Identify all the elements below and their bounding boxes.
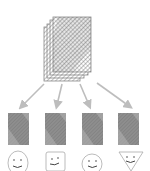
faces-row [8, 151, 143, 171]
fan-out-arrows [22, 83, 129, 106]
document-stack [44, 17, 91, 81]
oval-face-icon [8, 151, 28, 171]
tile-2 [45, 113, 66, 145]
tile-1 [8, 113, 29, 145]
tile-3 [82, 113, 103, 145]
tile-4 [118, 113, 139, 145]
arrow-4 [97, 83, 129, 106]
circle-face-icon [82, 154, 102, 171]
arrow-1 [22, 84, 44, 106]
arrow-2 [57, 84, 62, 105]
diagram-canvas [0, 0, 150, 171]
tiles-row [8, 113, 139, 145]
inverted-triangle-face-icon [119, 152, 143, 171]
square-face-icon [46, 152, 65, 171]
stack-page-1 [53, 17, 91, 72]
arrow-3 [80, 84, 89, 105]
